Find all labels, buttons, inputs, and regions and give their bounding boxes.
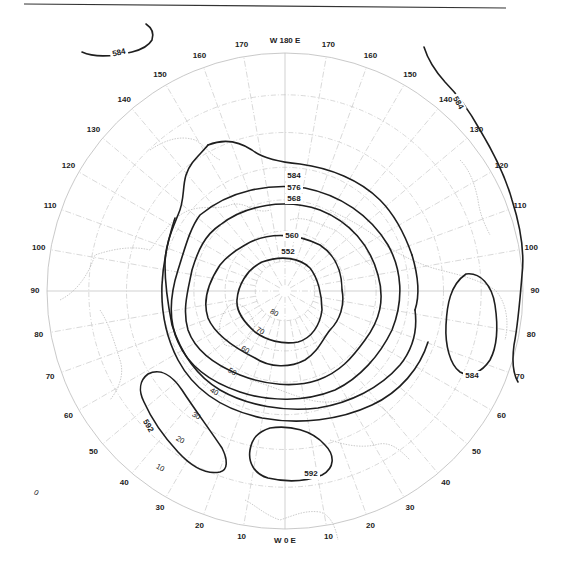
contour-584-upper-close — [412, 255, 418, 310]
lon-label-130e: 130 — [470, 125, 484, 134]
lon-label-60w: 60 — [64, 411, 73, 420]
lon-label-160w: 160 — [193, 51, 207, 60]
coastline-siberia — [290, 219, 370, 265]
meridian-300 — [79, 306, 259, 410]
header-rule — [24, 4, 506, 8]
polar-meridian-210 — [270, 265, 282, 286]
meridian-310 — [103, 310, 263, 444]
lon-label-150e: 150 — [403, 70, 417, 79]
lon-label-90w: 90 — [31, 286, 40, 295]
coastline-asia — [330, 210, 507, 340]
contour-label-584: 584 — [287, 171, 301, 180]
coastline-alaska — [150, 138, 220, 160]
lon-label-120w: 120 — [62, 161, 76, 170]
polar-map: 552560568576584584584584592592 807060504… — [0, 0, 571, 579]
lon-label-120e: 120 — [495, 161, 509, 170]
lon-label-10e: 10 — [324, 532, 333, 541]
lon-label-70w: 70 — [46, 372, 55, 381]
lon-label-110w: 110 — [44, 201, 57, 210]
lon-label-180: W 180 E — [270, 36, 301, 45]
meridian-130 — [308, 138, 468, 272]
lat-label-60: 60 — [239, 344, 251, 356]
polar-meridian-150 — [288, 265, 300, 286]
lon-label-60e: 60 — [497, 411, 506, 420]
polar-meridian-30 — [288, 296, 300, 317]
contour-label-592: 592 — [304, 469, 318, 478]
meridian-230 — [103, 138, 263, 272]
meridian-60 — [311, 306, 491, 410]
lon-label-80e: 80 — [527, 330, 536, 339]
meridian-150 — [300, 85, 404, 265]
lon-label-170e: 170 — [322, 40, 336, 49]
contour-label-576: 576 — [287, 183, 301, 192]
lon-label-0: W 0 E — [274, 536, 296, 545]
lon-label-40e: 40 — [441, 478, 450, 487]
polar-meridian-240 — [259, 276, 280, 288]
lon-label-70e: 70 — [515, 372, 524, 381]
meridian-120 — [311, 172, 491, 276]
contour-560 — [206, 236, 343, 366]
meridian-260 — [51, 250, 256, 286]
contour-576 — [171, 186, 400, 399]
meridian-210 — [166, 85, 270, 265]
meridian-280 — [51, 296, 256, 332]
contour-label-560: 560 — [285, 231, 299, 240]
lat-label-0: 0 — [32, 488, 40, 498]
lon-label-40w: 40 — [120, 478, 129, 487]
latitude-labels: 80706050403020100 — [32, 307, 280, 498]
lon-label-50e: 50 — [472, 447, 481, 456]
lon-label-90e: 90 — [531, 286, 540, 295]
lon-label-100e: 100 — [525, 243, 539, 252]
contour-label-584: 584 — [465, 371, 479, 380]
meridian-140 — [304, 109, 438, 269]
lat-label-20: 20 — [174, 434, 186, 446]
meridian-10 — [290, 320, 326, 525]
polar-meridian-120 — [290, 276, 311, 288]
lon-label-110e: 110 — [513, 201, 526, 210]
polar-meridian-300 — [259, 294, 280, 306]
lon-label-140w: 140 — [118, 95, 132, 104]
coastline-mediterranean — [330, 440, 410, 460]
lon-label-30e: 30 — [406, 503, 415, 512]
lon-label-20w: 20 — [195, 521, 204, 530]
lon-label-130w: 130 — [87, 125, 101, 134]
lon-label-10w: 10 — [237, 532, 246, 541]
contour-label-552: 552 — [281, 247, 295, 256]
lon-label-100w: 100 — [32, 243, 46, 252]
lon-label-80w: 80 — [34, 330, 43, 339]
lon-label-30w: 30 — [156, 503, 165, 512]
lon-label-160e: 160 — [364, 51, 378, 60]
contour-584-upper — [208, 141, 412, 255]
lon-label-20e: 20 — [366, 521, 375, 530]
polar-meridian-60 — [290, 294, 311, 306]
lon-label-140e: 140 — [439, 95, 453, 104]
lon-label-170w: 170 — [235, 40, 249, 49]
coastline-japan — [460, 160, 490, 235]
coastline-hudson — [100, 310, 122, 400]
meridian-240 — [79, 172, 259, 276]
lon-label-150w: 150 — [153, 70, 167, 79]
lat-label-10: 10 — [154, 462, 166, 474]
height-contours — [82, 24, 523, 481]
contour-label-568: 568 — [287, 194, 301, 203]
lon-label-50w: 50 — [89, 447, 98, 456]
